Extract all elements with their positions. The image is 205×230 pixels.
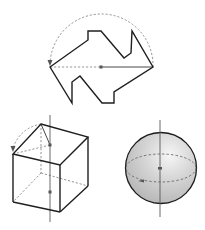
solid-radius [41,124,50,145]
hidden-edge [41,173,88,186]
axis-point-bottom [49,191,52,194]
hidden-edge [13,173,41,202]
cube-edge [60,186,88,212]
rotation-diagram [0,0,205,230]
sphere-center-point [158,167,162,170]
axis-point-top [49,144,52,147]
center-point [100,66,103,69]
cube-edge [13,202,60,212]
polygon-rotation-figure [48,14,154,103]
sphere-rotation-figure [126,120,197,217]
dashed-radius [13,145,50,154]
cube-rotation-figure [11,115,89,222]
